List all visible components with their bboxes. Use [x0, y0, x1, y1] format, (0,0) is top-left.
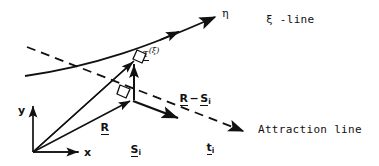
figure-canvas: η ξ -line τ(ξ) R−Si R Si ti x y Attracti… [0, 0, 379, 166]
attraction-line-caption: Attraction line [258, 124, 362, 135]
vector-S-i-label: Si [92, 124, 141, 166]
axis-y-label: y [18, 105, 25, 116]
eta-label: η [222, 8, 229, 19]
vector-t-i-label: ti [168, 122, 214, 166]
xi-line-caption: ξ -line [266, 14, 314, 25]
r-minus-si-minus-sign: − [188, 92, 200, 105]
r-minus-si-subscript: i [208, 97, 211, 106]
vector-t-subscript: i [212, 146, 215, 155]
tau-superscript: (ξ) [149, 46, 160, 55]
r-minus-si-s-symbol: S [200, 92, 208, 106]
r-minus-si-label: R−Si [141, 73, 211, 121]
tau-symbol: τ [143, 47, 149, 61]
vector-S-subscript: i [138, 148, 141, 157]
r-minus-si-r-symbol: R [180, 92, 188, 106]
vector-t-symbol: t [207, 141, 212, 155]
axis-x-label: x [84, 147, 91, 158]
tau-xi-label: τ(ξ) [104, 28, 159, 76]
xi-line-direction-arrow [160, 32, 179, 41]
